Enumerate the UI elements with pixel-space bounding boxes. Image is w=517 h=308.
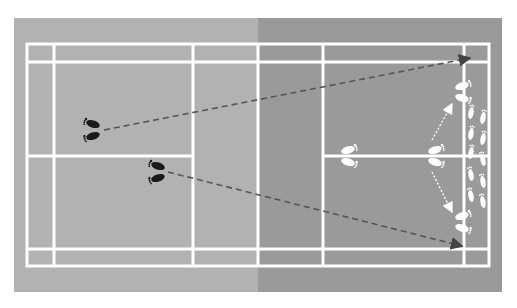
badminton-court-diagram — [0, 0, 517, 308]
